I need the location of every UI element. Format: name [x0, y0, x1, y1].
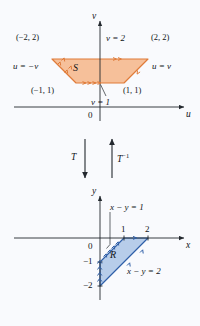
x-tick-label-2: 2: [145, 225, 150, 234]
uv-vertex-label-bottom-right: (1, 1): [123, 86, 141, 95]
xy-origin-label: 0: [88, 242, 93, 251]
region-s-label: S: [73, 63, 78, 73]
region-r-label: R: [110, 250, 116, 260]
y-axis-label: y: [92, 187, 96, 197]
uv-vertex-label-bottom-left: (−1, 1): [31, 86, 54, 95]
forward-transform-label: T: [71, 153, 76, 163]
xy-plane-group: [14, 196, 184, 300]
u-axis-label: u: [186, 110, 191, 120]
uv-vertex-label-top-left: (−2, 2): [16, 33, 39, 42]
v-axis-label: v: [92, 12, 96, 22]
uv-edge-label-v-equals-2: v = 2: [106, 34, 125, 43]
y-tick-label-minus-1: −1: [83, 257, 93, 266]
y-tick-label-minus-2: −2: [83, 281, 93, 290]
x-tick-label-1: 1: [121, 225, 126, 234]
x-axis-label: x: [186, 241, 190, 251]
figure-canvas: (−2, 2) (2, 2) (−1, 1) (1, 1) v = 2 v = …: [0, 0, 200, 326]
uv-origin-label: 0: [88, 111, 93, 120]
inverse-transform-exponent: −1: [122, 152, 129, 159]
figure-graphics: [0, 0, 200, 326]
v1-leader-line: [101, 85, 107, 97]
xy-edge-label-x-minus-y-equals-1: x − y = 1: [110, 203, 144, 212]
uv-edge-label-u-equals-minus-v: u = −v: [13, 62, 38, 71]
xy-edge-label-x-minus-y-equals-2: x − y = 2: [127, 267, 161, 276]
transformation-arrows-group: [85, 139, 112, 178]
xy1-leader-line: [107, 212, 111, 249]
uv-vertex-label-top-right: (2, 2): [151, 33, 169, 42]
uv-edge-label-v-equals-1: v = 1: [91, 98, 110, 107]
inverse-transform-label: T−1: [117, 153, 129, 165]
region-r-polygon: [100, 238, 148, 286]
uv-edge-label-u-equals-v: u = v: [152, 62, 171, 71]
